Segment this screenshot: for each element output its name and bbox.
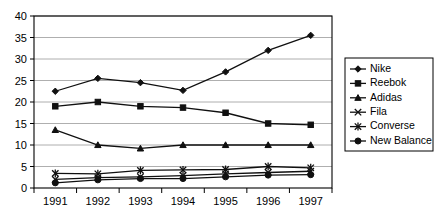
y-tick-label: 10 <box>15 139 27 151</box>
marker-circle-legend-5 <box>355 138 361 144</box>
y-tick-label: 25 <box>15 75 27 87</box>
x-tick-label: 1991 <box>43 195 67 207</box>
marker-diamond-0-5 <box>265 47 271 53</box>
marker-triangle-2-0 <box>52 127 58 133</box>
legend-item-label: Reebok <box>370 76 407 88</box>
y-tick-label: 40 <box>15 10 27 22</box>
x-tick-label: 1995 <box>213 195 237 207</box>
legend-item-label: Fila <box>370 105 387 117</box>
chart-canvas: 0510152025303540199119921993199419951996… <box>0 0 440 217</box>
x-tick-label: 1992 <box>86 195 110 207</box>
x-tick-label: 1993 <box>128 195 152 207</box>
line-chart: 0510152025303540199119921993199419951996… <box>0 0 440 217</box>
y-tick-label: 20 <box>15 96 27 108</box>
series-nike <box>52 32 314 94</box>
marker-circle-5-4 <box>223 174 229 180</box>
marker-square-1-4 <box>223 110 228 115</box>
marker-square-1-1 <box>95 99 100 104</box>
marker-diamond-0-3 <box>180 87 186 93</box>
y-tick-label: 0 <box>21 182 27 194</box>
legend-item-label: Adidas <box>370 91 402 103</box>
marker-square-1-5 <box>265 121 270 126</box>
legend-item-label: Converse <box>370 119 415 131</box>
marker-square-1-3 <box>180 105 185 110</box>
series-adidas <box>52 127 314 151</box>
marker-circle-5-3 <box>180 176 186 182</box>
marker-diamond-0-4 <box>222 69 228 75</box>
marker-circle-5-5 <box>265 172 271 178</box>
marker-square-1-2 <box>138 104 143 109</box>
marker-diamond-0-0 <box>52 88 58 94</box>
marker-square-1-0 <box>53 104 58 109</box>
y-tick-label: 5 <box>21 161 27 173</box>
x-tick-label: 1997 <box>298 195 322 207</box>
legend: NikeReebokAdidasFilaConverseNew Balance <box>345 58 433 151</box>
legend-item-label: Nike <box>370 62 391 74</box>
x-tick-label: 1994 <box>171 195 195 207</box>
marker-circle-5-6 <box>308 172 314 178</box>
y-tick-label: 15 <box>15 118 27 130</box>
marker-circle-5-2 <box>137 176 143 182</box>
y-tick-label: 30 <box>15 53 27 65</box>
marker-square-1-6 <box>308 122 313 127</box>
x-tick-label: 1996 <box>256 195 280 207</box>
series-line <box>55 35 310 91</box>
y-tick-label: 35 <box>15 32 27 44</box>
marker-circle-5-1 <box>95 177 101 183</box>
legend-item-label: New Balance <box>370 134 432 146</box>
marker-circle-5-0 <box>52 180 58 186</box>
marker-square-legend-1 <box>355 81 360 86</box>
